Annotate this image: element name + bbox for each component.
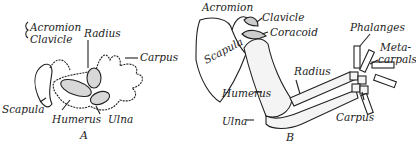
label-acromion-a: Acromion — [30, 22, 81, 33]
label-clavicle-a: Clavicle — [30, 34, 72, 45]
label-humerus-b: Humerus — [222, 88, 271, 99]
label-scapula-a: Scapula — [2, 104, 44, 115]
panel-label-a: A — [80, 130, 88, 141]
scapula-a-shape — [35, 64, 52, 107]
label-metacarpals-b-1: Meta- — [380, 42, 411, 53]
clavicle-a-shape — [50, 60, 70, 70]
label-ulna-a: Ulna — [108, 114, 133, 125]
label-metacarpals-b-2: carpals — [378, 54, 416, 65]
label-ulna-b: Ulna — [222, 116, 247, 127]
panel-label-b: B — [286, 132, 294, 143]
radius-a-shape — [87, 68, 101, 88]
clavicle-b-shape — [244, 17, 258, 26]
label-coracoid-b: Coracoid — [270, 27, 318, 38]
label-acromion-b: Acromion — [202, 2, 253, 13]
label-radius-a: Radius — [84, 28, 121, 39]
label-phalanges-b: Phalanges — [350, 22, 405, 33]
carpus-b-shape — [350, 72, 368, 94]
coracoid-b-shape — [242, 30, 266, 38]
label-carpus-a: Carpus — [140, 52, 178, 63]
label-carpus-b: Carpus — [336, 112, 374, 123]
label-humerus-a: Humerus — [52, 114, 101, 125]
anatomy-figure: Acromion Clavicle Radius Carpus Scapula … — [0, 0, 416, 147]
label-radius-b: Radius — [294, 66, 331, 77]
label-clavicle-b: Clavicle — [262, 12, 304, 23]
ulna-a-shape — [89, 89, 112, 107]
humerus-b-shape — [244, 39, 292, 117]
